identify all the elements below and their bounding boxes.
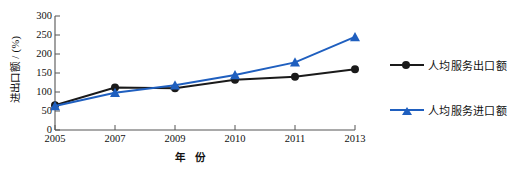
data-point-circle	[351, 65, 359, 73]
x-tick-2010: 2010	[215, 133, 255, 144]
triangle-marker-icon	[390, 104, 424, 116]
legend-item-export[interactable]: 人均服务出口额	[390, 57, 507, 73]
x-tick-2007: 2007	[95, 133, 135, 144]
circle-marker-icon	[390, 59, 424, 71]
chart-container: 进出口额 / (%) 300 250 200 150 100 50 0	[0, 0, 516, 185]
cropped-caption-sliver	[130, 176, 390, 183]
plot-area	[0, 0, 516, 185]
series-export	[51, 65, 359, 109]
x-tick-2005: 2005	[35, 133, 75, 144]
data-point-circle	[291, 73, 299, 81]
x-tick-2011: 2011	[275, 133, 315, 144]
data-point-triangle	[350, 32, 360, 41]
legend-label-import: 人均服务进口额	[428, 102, 507, 118]
series-line	[55, 37, 355, 106]
x-axis-label: 年 份	[175, 149, 208, 164]
data-point-triangle	[290, 57, 300, 66]
x-tick-2013: 2013	[335, 133, 375, 144]
series-layer	[50, 32, 360, 110]
y-axis-ticks	[55, 16, 60, 130]
x-axis-ticks	[55, 125, 355, 130]
legend-label-export: 人均服务出口额	[428, 57, 507, 73]
series-import	[50, 32, 360, 110]
legend-item-import[interactable]: 人均服务进口额	[390, 102, 507, 118]
series-line	[55, 69, 355, 105]
x-tick-2009: 2009	[155, 133, 195, 144]
